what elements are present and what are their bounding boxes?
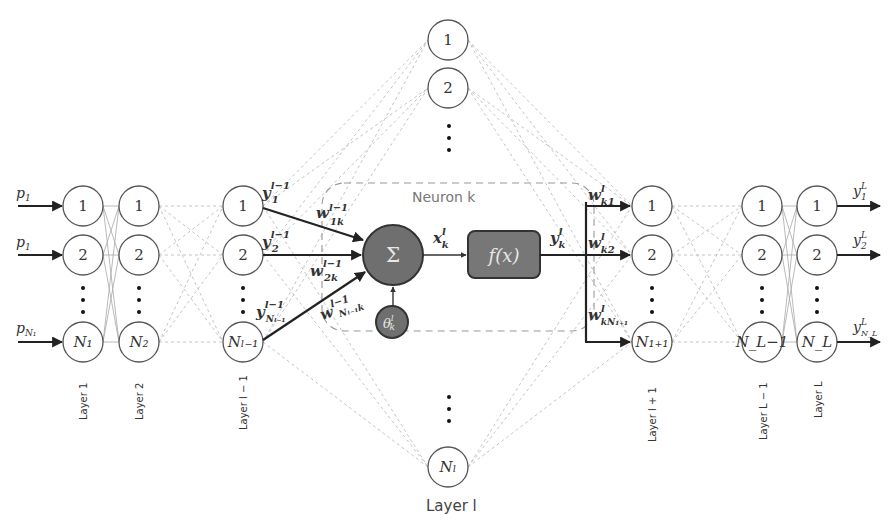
weighted-inputs: yl−11 yl−12 yl−1Nₗ₋₁ wl−11k wl−12k wl−1N…	[255, 180, 365, 340]
connections-layer-L-minus-1-layer-L	[782, 206, 797, 342]
layer-L-minus-1-node-1: 1	[757, 197, 767, 215]
layer2-node-n: N₂	[128, 333, 148, 351]
svg-text:wl−1Nₗ₋₁k: wl−1Nₗ₋₁k	[316, 289, 365, 324]
layer-l-plus-1-label: Layer l + 1	[647, 387, 658, 442]
in-weight-2: w	[310, 262, 324, 280]
layer-L-node-n: N_L	[801, 333, 833, 351]
layer-l-title: Layer l	[426, 497, 477, 515]
layer-L-node-1: 1	[812, 197, 822, 215]
svg-text:p1: p1	[16, 234, 31, 252]
svg-text:yL1: yL1	[852, 181, 867, 202]
layer-L-minus-1-node-n: N_L−1	[735, 333, 789, 351]
layer-l-minus-1-node-2: 2	[238, 246, 248, 264]
svg-text:pN₁: pN₁	[16, 320, 36, 338]
layer-L-minus-1: 1 2 N_L−1 Layer L − 1	[735, 186, 789, 440]
layer-1-label: Layer 1	[78, 383, 89, 420]
layer2-node-2: 2	[134, 246, 144, 264]
output-distribution: wlk1 wlk2 wlkN₁₊₁	[585, 183, 630, 342]
layer-2: 1 2 N₂ Layer 2	[119, 186, 159, 420]
input-label-n: p	[16, 320, 25, 336]
layer-L-minus-1-node-2: 2	[757, 246, 767, 264]
svg-text:wl−11k: wl−11k	[316, 202, 348, 227]
layer-2-label: Layer 2	[134, 383, 145, 420]
layer1-node-2: 2	[78, 246, 88, 264]
layer-l-plus-1-node-n: N₁₊₁	[634, 333, 668, 351]
in-weight-1: w	[316, 204, 330, 222]
output-arrows: yL1 yL2 yLN_L	[837, 181, 880, 342]
svg-text:p1: p1	[16, 185, 31, 203]
layer-L-label: Layer L	[813, 381, 824, 418]
layer-l-minus-1-label: Layer l − 1	[238, 375, 249, 430]
layer1-node-1: 1	[78, 197, 88, 215]
svg-text:wlk1: wlk1	[588, 183, 615, 207]
layer-l-node-1: 1	[443, 31, 453, 49]
svg-text:yl−1Nₗ₋₁: yl−1Nₗ₋₁	[255, 299, 285, 324]
layer-L-node-2: 2	[812, 246, 822, 264]
svg-text:wl−12k: wl−12k	[310, 258, 342, 283]
svg-text:yL2: yL2	[852, 230, 867, 251]
sigma-symbol: Σ	[386, 243, 400, 267]
connections-layer2-layer-l-minus-1	[159, 206, 223, 342]
layer-L: 1 2 N_L Layer L	[797, 186, 837, 418]
layer2-node-1: 1	[134, 197, 144, 215]
net-input-label: xlk	[432, 226, 449, 250]
input-arrows: p1 p1 pN₁	[16, 185, 62, 342]
input-label-2: p	[16, 234, 25, 250]
connections-layer-l-plus-1-layer-L-minus-1	[672, 206, 742, 342]
neuron-k-title: Neuron k	[412, 189, 476, 205]
svg-text:yl−11: yl−11	[261, 180, 290, 205]
layer-1: 1 2 N₁ Layer 1	[63, 186, 103, 420]
layer-l-plus-1-node-2: 2	[647, 246, 657, 264]
input-label-1: p	[16, 185, 25, 201]
layer-l-minus-1-node-n: Nₗ₋₁	[227, 333, 259, 351]
layer-l-minus-1-node-1: 1	[238, 197, 248, 215]
svg-text:yLN_L: yLN_L	[852, 317, 877, 338]
svg-text:wlkN₁₊₁: wlkN₁₊₁	[588, 303, 628, 327]
neuron-output-label: ylk	[549, 226, 566, 250]
activation-function-label: f(x)	[487, 245, 520, 266]
bias-label: θlk	[383, 314, 395, 333]
layer-L-minus-1-label: Layer L − 1	[758, 382, 769, 440]
layer-l-node-n: Nₗ	[439, 458, 457, 476]
connections-layer1-layer2	[103, 206, 119, 342]
layer-l-plus-1: 1 2 N₁₊₁ Layer l + 1	[632, 186, 672, 442]
svg-text:wlk2: wlk2	[588, 231, 615, 255]
layer-l-plus-1-node-1: 1	[647, 197, 657, 215]
layer1-node-n: N₁	[72, 333, 92, 351]
layer-l-node-2: 2	[443, 79, 453, 97]
neural-network-diagram: Neuron k p1 p1 pN₁ 1 2 N₁ Layer 1 1 2 N₂…	[0, 0, 894, 527]
